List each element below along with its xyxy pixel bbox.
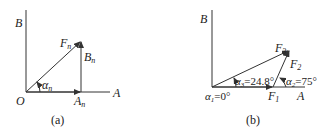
label-a: A (296, 89, 305, 103)
svg-text:F1: F1 (267, 89, 279, 104)
label-b: B (200, 12, 208, 26)
svg-text:F3: F3 (274, 41, 286, 56)
svg-text:Fn: Fn (59, 36, 71, 51)
svg-text:A: A (112, 86, 121, 100)
caption-a: (a) (51, 113, 64, 127)
svg-text:α1=0°: α1=0° (205, 90, 230, 104)
svg-text:Bn: Bn (84, 50, 95, 65)
svg-text:B: B (200, 12, 208, 26)
svg-text:O: O (16, 94, 25, 108)
svg-text:α2=75°: α2=75° (286, 75, 317, 89)
caption-b: (b) (246, 113, 260, 127)
vector-diagram: B O A Fn Bn An αn (a) B A F3 F2 F1 α1=0°… (0, 0, 335, 134)
svg-text:α3=24.8°: α3=24.8° (235, 75, 274, 89)
angle-arc-alpha-n (37, 82, 40, 92)
svg-text:An: An (73, 94, 85, 109)
svg-text:B: B (15, 16, 23, 30)
label-b: B (15, 16, 23, 30)
figure-a: B O A Fn Bn An αn (a) (15, 10, 121, 127)
vector-fn (26, 42, 80, 92)
svg-text:αn: αn (42, 78, 52, 93)
figure-b: B A F3 F2 F1 α1=0° α3=24.8° α2=75° (b) (200, 10, 317, 127)
svg-text:A: A (296, 89, 305, 103)
label-o: O (16, 94, 25, 108)
label-a: A (112, 86, 121, 100)
svg-text:F2: F2 (289, 57, 301, 72)
